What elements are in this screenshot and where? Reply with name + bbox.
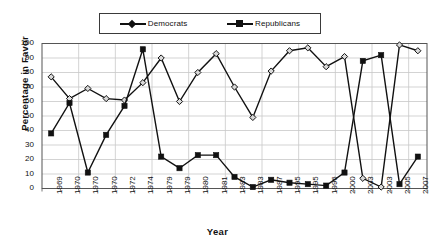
data-point [67, 100, 72, 105]
data-point [103, 96, 109, 102]
y-tick-label: 0 [8, 183, 34, 192]
x-tick-label: 1983 [238, 176, 247, 194]
x-tick-label: 1979 [165, 176, 174, 194]
axis-frame [42, 44, 427, 192]
y-tick-label: 10 [8, 169, 34, 178]
x-tick-label: 2005 [403, 176, 412, 194]
data-point [250, 114, 256, 120]
x-tick-label: 1970 [91, 176, 100, 194]
x-tick-label: 2003 [385, 176, 394, 194]
data-point [140, 47, 145, 52]
data-point [324, 183, 329, 188]
data-point [85, 85, 91, 91]
x-tick-label: 1981 [220, 176, 229, 194]
data-point [122, 103, 127, 108]
data-point [415, 48, 421, 54]
x-tick-label: 1995 [293, 176, 302, 194]
x-tick-label: 1996 [330, 176, 339, 194]
x-tick-label: 2000 [348, 176, 357, 194]
x-tick-label: 1980 [201, 176, 210, 194]
x-axis-title: Year [0, 226, 435, 237]
data-point [378, 184, 384, 190]
plot-svg [0, 0, 435, 245]
data-point [396, 42, 402, 48]
y-axis-title: Percentage in Favor [19, 19, 30, 149]
data-point [250, 184, 255, 189]
data-point [231, 84, 237, 90]
data-point [232, 174, 237, 179]
data-point [177, 166, 182, 171]
x-tick-label: 1969 [55, 176, 64, 194]
x-tick-label: 1979 [183, 176, 192, 194]
x-tick-label: 1970 [110, 176, 119, 194]
data-point [159, 154, 164, 159]
data-point [104, 132, 109, 137]
data-point [195, 153, 200, 158]
data-point [341, 53, 347, 59]
data-point [305, 182, 310, 187]
x-tick-label: 1987 [275, 176, 284, 194]
x-tick-label: 1983 [256, 176, 265, 194]
plot-area: 0102030405060708090100 19691970197019701… [0, 0, 435, 245]
data-point [360, 175, 366, 181]
x-tick-label: 2003 [366, 176, 375, 194]
data-point [85, 170, 90, 175]
data-point [360, 58, 365, 63]
data-point [49, 131, 54, 136]
data-point [214, 153, 219, 158]
x-tick-label: 1995 [311, 176, 320, 194]
data-point [415, 154, 420, 159]
data-point [342, 170, 347, 175]
data-point [269, 177, 274, 182]
grid-layer [42, 44, 427, 189]
y-tick-label: 20 [8, 154, 34, 163]
data-point [287, 180, 292, 185]
x-tick-label: 1974 [146, 176, 155, 194]
x-tick-label: 2007 [421, 176, 430, 194]
data-point [379, 53, 384, 58]
series-line-republicans [51, 49, 418, 187]
data-point [397, 182, 402, 187]
x-tick-label: 1970 [73, 176, 82, 194]
x-tick-label: 1972 [128, 176, 137, 194]
line-chart: Democrats Republicans 010203040506070809… [0, 0, 435, 245]
